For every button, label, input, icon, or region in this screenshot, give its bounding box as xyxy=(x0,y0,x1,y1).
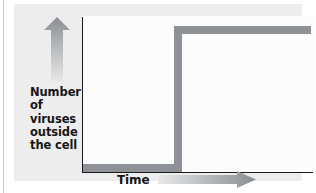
figure-panel: Number of viruses outside the cell Time xyxy=(14,4,302,181)
arrow-up-icon xyxy=(44,17,70,81)
x-axis-label: Time xyxy=(117,173,150,188)
left-edge-rule xyxy=(3,0,4,193)
y-axis-label-line-2: of xyxy=(30,99,82,112)
y-axis-label-line-3: viruses xyxy=(30,113,82,126)
y-axis-label-line-1: Number xyxy=(30,86,82,99)
virus-burst-figure: Number of viruses outside the cell Time xyxy=(0,0,316,193)
y-axis-line xyxy=(82,17,83,173)
plot-area xyxy=(83,16,315,173)
arrow-right-icon xyxy=(158,171,256,188)
y-axis-label: Number of viruses outside the cell xyxy=(30,86,82,152)
y-axis-label-line-5: the cell xyxy=(30,139,82,152)
curve-segment-plateau xyxy=(174,26,311,34)
y-axis-label-line-4: outside xyxy=(30,126,82,139)
curve-segment-riser xyxy=(174,26,182,172)
